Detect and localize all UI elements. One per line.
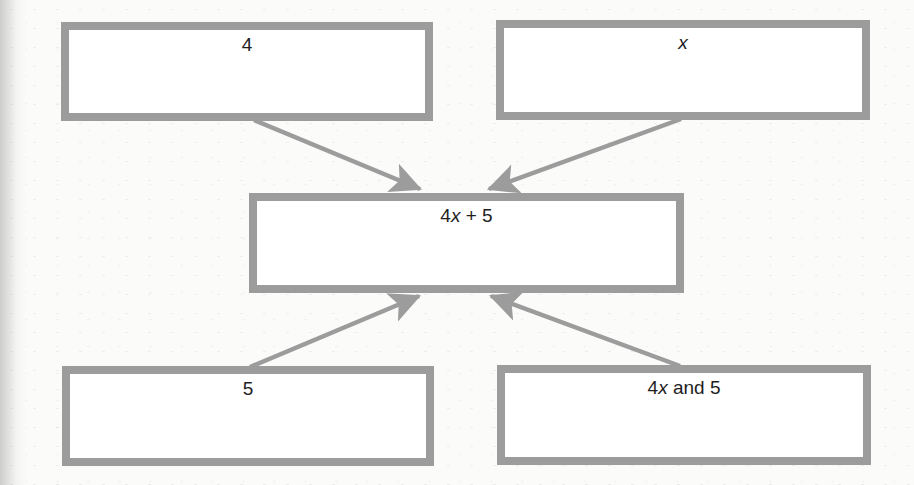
coefficient: 4 — [440, 205, 451, 226]
arrow-top-left-to-center — [254, 120, 420, 189]
box-bottom-right-label: 4x and 5 — [505, 377, 863, 399]
box-top-right: x — [496, 20, 870, 120]
box-center-label: 4x + 5 — [257, 205, 676, 227]
arrow-bottom-right-to-center — [491, 296, 680, 366]
expression-rest: + 5 — [460, 205, 492, 226]
box-bottom-left-label: 5 — [70, 378, 426, 400]
variable-x: x — [658, 377, 668, 398]
arrow-bottom-left-to-center — [250, 296, 419, 367]
variable-x: x — [451, 205, 461, 226]
label-rest: and 5 — [668, 377, 721, 398]
coefficient: 4 — [648, 377, 659, 398]
box-top-right-label: x — [504, 32, 862, 54]
box-bottom-left: 5 — [62, 366, 434, 466]
box-top-left: 4 — [61, 22, 433, 121]
arrow-top-right-to-center — [489, 119, 681, 189]
box-bottom-right: 4x and 5 — [497, 365, 871, 465]
box-center: 4x + 5 — [249, 193, 684, 293]
variable-x: x — [678, 32, 688, 53]
box-top-left-label: 4 — [69, 34, 425, 56]
